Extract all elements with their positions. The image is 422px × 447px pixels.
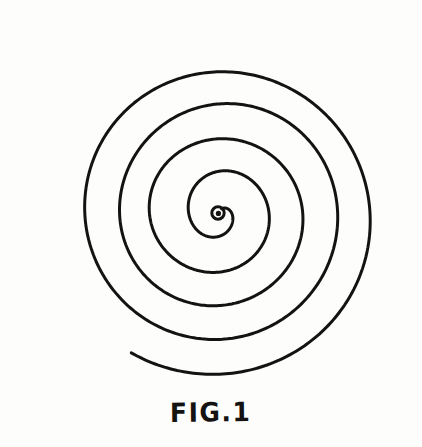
spiral-drawing — [0, 0, 422, 447]
center-dot — [216, 211, 221, 216]
spiral-curve — [85, 72, 371, 375]
figure-sheet: FIG.1 — [0, 0, 422, 447]
